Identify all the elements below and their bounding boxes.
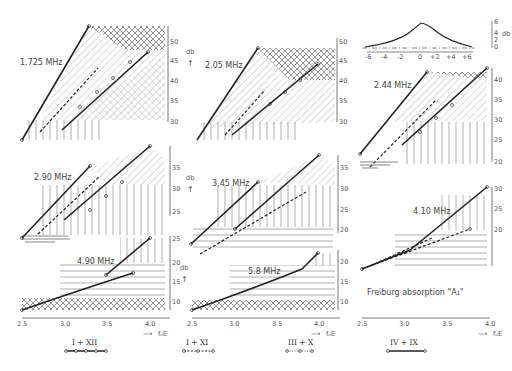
y-tick: 35	[340, 164, 348, 172]
x-tick: 2.5	[357, 320, 367, 328]
legend-label: I + XI	[186, 338, 208, 347]
panel-label: 2.44 MHz	[374, 81, 411, 90]
up-arrow-icon: ↑	[187, 185, 194, 194]
panel-label: 2.05 MHz	[205, 61, 242, 70]
unit-label: db	[502, 30, 510, 38]
arrow-icon: ⟶	[311, 330, 320, 338]
x-tick: 3.5	[272, 320, 282, 328]
x-axis-label: f₀E	[493, 330, 502, 338]
y-tick: 0	[494, 43, 498, 51]
y-tick: 40	[339, 77, 347, 85]
x-axis-label: f₀E	[326, 330, 335, 338]
legend-item: I + XII	[65, 338, 108, 352]
y-tick: 25	[340, 206, 348, 214]
y-tick: 30	[340, 185, 348, 193]
x-tick: +4	[446, 53, 456, 61]
y-tick: 30	[339, 118, 347, 126]
x-tick: 2.5	[187, 320, 197, 328]
arrow-icon: ⟶	[143, 330, 152, 338]
panel-410mhz: 30 25 20 4.10 MHz Freiburg absorption "A…	[361, 185, 503, 297]
x-tick: 3.0	[60, 320, 70, 328]
panel-244mhz: 40 35 30 25 20 2.44 MHz	[359, 67, 503, 169]
y-tick: 35	[339, 97, 347, 105]
y-tick: 45	[170, 57, 178, 65]
y-tick: 35	[172, 164, 180, 172]
y-tick: 35	[494, 96, 502, 104]
y-tick: 6	[494, 18, 498, 26]
y-tick: 30	[170, 118, 178, 126]
arrow-icon: ⟶	[478, 330, 487, 338]
y-tick: 50	[339, 38, 347, 46]
y-tick: 20	[340, 226, 348, 234]
panel-490mhz: 25 20 15 10 4.90 MHz 2.5 3.0 3.5 4.0 ⟶ f…	[17, 235, 180, 338]
unit-label: db	[180, 264, 188, 272]
up-arrow-icon: ↑	[181, 275, 188, 284]
freiburg-annotation: Freiburg absorption "A₁"	[367, 288, 464, 297]
panel-label: 3.45 MHz	[212, 179, 249, 188]
y-tick: 10	[172, 298, 180, 306]
legend: I + XII I + XI III + X IV + IX	[65, 338, 427, 352]
y-tick: 15	[172, 278, 180, 286]
unit-label: db	[186, 48, 194, 56]
panel-58mhz: 20 15 10 5.8 MHz 2.5 3.0 3.5 4.0 ⟶ f₀E	[187, 250, 348, 338]
panel-1725mhz: 50 45 40 35 30 1.725 MHz	[20, 25, 178, 142]
x-tick: 3.0	[399, 320, 409, 328]
y-tick: 45	[339, 57, 347, 65]
y-tick: 10	[340, 298, 348, 306]
legend-label: IV + IX	[390, 338, 418, 347]
y-tick: 20	[340, 258, 348, 266]
y-tick: 30	[494, 116, 502, 124]
panel-label: 4.90 MHz	[77, 257, 114, 266]
legend-item: III + X	[286, 338, 314, 352]
panel-345mhz: 35 30 25 20 3.45 MHz	[190, 154, 349, 255]
x-tick: -4	[381, 53, 387, 61]
legend-item: I + XI	[183, 338, 215, 352]
x-tick: 3.5	[102, 320, 112, 328]
y-tick: 40	[494, 76, 502, 84]
y-tick: 20	[494, 226, 502, 234]
x-tick: 4.0	[485, 320, 495, 328]
x-axis-right: 2.5 3.0 3.5 4.0 ⟶ f₀E	[357, 318, 502, 338]
y-tick: 25	[172, 208, 180, 216]
y-tick: 40	[170, 77, 178, 85]
y-tick: 35	[170, 97, 178, 105]
y-tick: 30	[494, 185, 502, 193]
x-tick: -2	[397, 53, 403, 61]
y-tick: 25	[172, 235, 180, 243]
x-tick: 3.0	[229, 320, 239, 328]
y-tick: 2	[494, 36, 498, 44]
x-axis-label: f₀E	[158, 330, 167, 338]
x-tick: +2	[430, 53, 440, 61]
y-tick: 25	[494, 205, 502, 213]
y-tick: 4	[494, 29, 498, 37]
x-tick: 2.5	[17, 320, 27, 328]
legend-label: I + XII	[72, 338, 97, 347]
absorption-figure: 50 45 40 35 30 1.725 MHz db ↑ 50 45 40 3…	[0, 0, 512, 371]
legend-label: III + X	[288, 338, 314, 347]
unit-label: db	[186, 174, 194, 182]
y-tick: 30	[172, 185, 180, 193]
panel-205mhz: 50 45 40 35 30 2.05 MHz	[197, 38, 347, 140]
y-tick: 20	[494, 158, 502, 166]
legend-item: IV + IX	[387, 338, 427, 352]
inset-profile: -6 -4 -2 0 +2 +4 +6 0 2 4 6 db	[362, 18, 510, 61]
x-tick: -6	[365, 53, 371, 61]
x-tick: 4.0	[314, 320, 324, 328]
x-tick: 3.5	[442, 320, 452, 328]
x-tick: 4.0	[145, 320, 155, 328]
y-tick: 15	[340, 278, 348, 286]
y-tick: 25	[494, 136, 502, 144]
panel-label: 5.8 MHz	[248, 267, 280, 276]
x-tick: 0	[418, 53, 422, 61]
y-tick: 50	[170, 38, 178, 46]
panel-label: 4.10 MHz	[413, 207, 450, 216]
up-arrow-icon: ↑	[187, 59, 194, 68]
panel-label: 2.90 MHz	[34, 173, 71, 182]
panel-label: 1.725 MHz	[20, 58, 63, 67]
panel-290mhz: 35 30 25 2.90 MHz	[21, 145, 181, 243]
x-tick: +6	[462, 53, 472, 61]
